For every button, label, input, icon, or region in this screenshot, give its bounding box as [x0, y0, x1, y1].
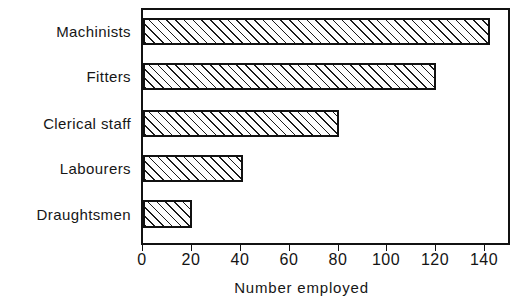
- category-label-fitters: Fitters: [87, 69, 131, 84]
- x-tick-label-140: 140: [470, 252, 498, 268]
- bar-machinists: [143, 18, 490, 45]
- bar-draughtsmen: [143, 200, 192, 228]
- plot-area: [141, 8, 510, 245]
- x-tick-label-20: 20: [182, 252, 201, 268]
- x-tick-label-60: 60: [280, 252, 299, 268]
- category-label-labourers: Labourers: [60, 161, 131, 176]
- x-tick-label-100: 100: [372, 252, 400, 268]
- bar-labourers: [143, 155, 243, 182]
- x-tick-label-120: 120: [421, 252, 449, 268]
- category-label-machinists: Machinists: [56, 24, 131, 39]
- x-axis-title: Number employed: [0, 280, 517, 295]
- category-label-draughtsmen: Draughtsmen: [37, 207, 131, 222]
- category-label-clerical-staff: Clerical staff: [43, 116, 131, 131]
- bar-chart: Machinists Fitters Clerical staff Labour…: [0, 0, 517, 303]
- x-tick-label-40: 40: [231, 252, 250, 268]
- x-axis-title-text: Number employed: [234, 279, 369, 296]
- x-tick-label-80: 80: [329, 252, 348, 268]
- bar-clerical-staff: [143, 110, 339, 137]
- bar-fitters: [143, 63, 436, 90]
- x-tick-label-0: 0: [137, 252, 146, 268]
